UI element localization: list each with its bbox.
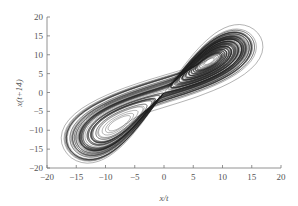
x-tick-label: −10 [98, 172, 113, 182]
x-axis-label: x/t [159, 193, 169, 203]
y-tick-label: 5 [39, 69, 44, 79]
attractor-trajectory [61, 25, 263, 164]
x-tick-label: 20 [277, 172, 287, 182]
y-tick-label: 20 [34, 12, 44, 22]
x-tick-label: −15 [69, 172, 84, 182]
x-tick-label: −20 [40, 172, 55, 182]
x-tick-label: 5 [191, 172, 196, 182]
y-axis-label: x(t+14) [14, 79, 24, 108]
x-axis-ticks: −20−15−10−505101520 [40, 165, 286, 182]
x-tick-label: −5 [130, 172, 140, 182]
x-tick-label: 15 [247, 172, 257, 182]
trajectory-line [61, 25, 263, 164]
y-tick-label: 0 [39, 88, 44, 98]
y-tick-label: −5 [33, 106, 43, 116]
y-tick-label: −10 [29, 125, 44, 135]
attractor-chart: −20−15−10−505101520 −20−15−10−505101520 … [0, 0, 298, 206]
x-tick-label: 0 [162, 172, 167, 182]
x-tick-label: 10 [218, 172, 228, 182]
y-tick-label: 10 [34, 50, 44, 60]
y-tick-label: 15 [34, 31, 44, 41]
y-tick-label: −15 [29, 144, 44, 154]
